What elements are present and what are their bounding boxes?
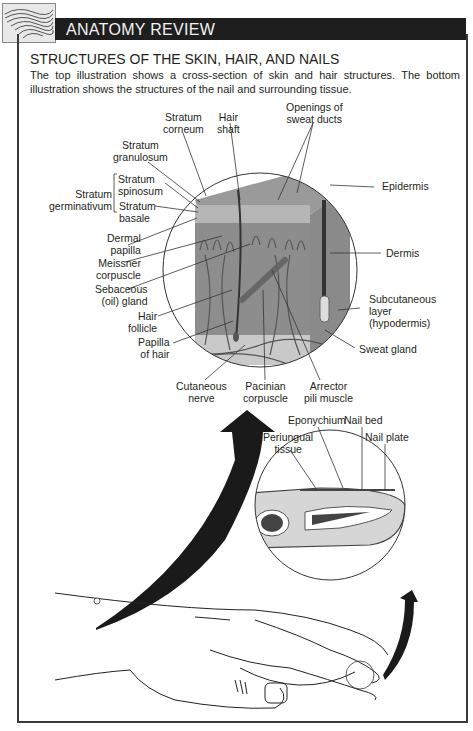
label-stratum-granulosum: Stratumgranulosum <box>113 139 168 163</box>
label-dermis: Dermis <box>386 247 419 259</box>
label-openings-of-sweat-ducts: Openings ofsweat ducts <box>286 101 343 125</box>
skin-and-nail-illustration <box>0 0 473 731</box>
label-nail-bed: Nail bed <box>344 414 383 426</box>
label-nail-plate: Nail plate <box>365 431 409 443</box>
label-stratum-germinativum: Stratumgerminativum <box>49 188 112 212</box>
label-hair-follicle: Hairfollicle <box>128 310 157 334</box>
arrow-to-nail-icon <box>383 590 418 680</box>
label-stratum-corneum: Stratumcorneum <box>163 111 204 135</box>
label-pacinian-corpuscle: Paciniancorpuscle <box>243 380 288 404</box>
label-stratum-basale: Stratumbasale <box>119 200 156 224</box>
label-sebaceous-gland: Sebaceous(oil) gland <box>95 283 148 307</box>
label-arrector-pili-muscle: Arrectorpili muscle <box>304 380 353 404</box>
label-periungual-tissue: Periungualtissue <box>263 431 313 455</box>
arrow-to-skin-icon <box>96 410 275 630</box>
label-sweat-gland: Sweat gland <box>359 343 417 355</box>
label-papilla-of-hair: Papillaof hair <box>138 336 170 360</box>
label-epidermis: Epidermis <box>382 180 429 192</box>
label-cutaneous-nerve: Cutaneousnerve <box>176 380 227 404</box>
hand-illustration <box>55 593 388 708</box>
label-meissner-corpuscle: Meissnercorpuscle <box>96 257 141 281</box>
label-stratum-spinosum: Stratumspinosum <box>118 173 163 197</box>
label-subcutaneous-layer: Subcutaneouslayer(hypodermis) <box>369 293 436 329</box>
label-hair-shaft: Hairshaft <box>217 111 240 135</box>
label-eponychium: Eponychium <box>288 414 346 426</box>
label-dermal-papilla: Dermalpapilla <box>107 232 141 256</box>
skin-cross-section <box>160 170 360 370</box>
